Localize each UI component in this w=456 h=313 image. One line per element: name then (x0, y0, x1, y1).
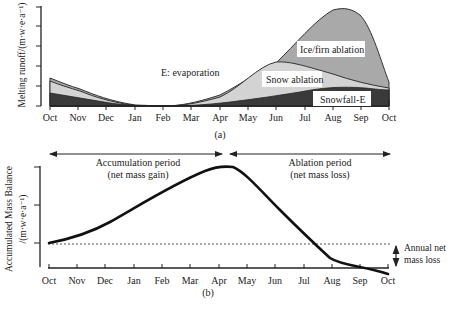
y-axis-label-a: Melting runoff/(m·w·e·a⁻¹) (17, 2, 28, 107)
svg-text:Dec: Dec (98, 112, 115, 123)
x-tick-labels-b: Oct Nov Dec Jan Feb Mar Apr May Jun Jul … (42, 275, 396, 286)
svg-text:Oct: Oct (43, 112, 58, 123)
svg-text:Jul: Jul (298, 275, 310, 286)
svg-text:Apr: Apr (212, 112, 228, 123)
svg-text:Mar: Mar (182, 275, 199, 286)
svg-text:May: May (238, 275, 256, 286)
svg-text:Feb: Feb (155, 275, 170, 286)
ice-firn-ablation-label: Ice/firn ablation (300, 44, 364, 55)
panel-b: Accumulation period (net mass gain) Abla… (4, 154, 446, 299)
mass-balance-curve (49, 167, 388, 274)
svg-text:Mar: Mar (183, 112, 200, 123)
svg-text:Jul: Jul (299, 112, 311, 123)
svg-text:May: May (239, 112, 257, 123)
annual-net-label: Annual net (404, 243, 446, 253)
evaporation-note: E: evaporation (161, 67, 220, 78)
svg-text:Oct: Oct (42, 275, 57, 286)
ablation-period-sub: (net mass loss) (290, 169, 349, 181)
ablation-period-title: Ablation period (288, 157, 351, 168)
y-axis-label-b-line1: Accumulated Mass Balance (4, 166, 14, 272)
x-tick-labels-a: Oct Nov Dec Jan Feb Mar Apr May Jun Jul … (43, 112, 397, 123)
panel-label-b: (b) (202, 287, 214, 299)
svg-text:Aug: Aug (323, 275, 340, 286)
svg-text:Jan: Jan (128, 112, 141, 123)
svg-text:Dec: Dec (97, 275, 114, 286)
panel-label-a: (a) (214, 129, 225, 141)
svg-text:Jun: Jun (268, 275, 282, 286)
svg-text:Oct: Oct (381, 275, 396, 286)
snowfall-e-label: Snowfall-E (320, 94, 366, 105)
y-axis-label-b-line2: /(m·w·e·a⁻¹) (18, 194, 29, 243)
svg-text:Nov: Nov (68, 275, 85, 286)
svg-text:Apr: Apr (211, 275, 227, 286)
svg-text:Oct: Oct (382, 112, 397, 123)
svg-text:Sep: Sep (354, 112, 369, 123)
figure: Oct Nov Dec Jan Feb Mar Apr May Jun Jul … (0, 0, 456, 313)
snow-ablation-label: Snow ablation (266, 74, 324, 85)
panel-a: Oct Nov Dec Jan Feb Mar Apr May Jun Jul … (17, 2, 396, 141)
mass-loss-label: mass loss (404, 255, 440, 265)
svg-text:Jan: Jan (127, 275, 140, 286)
svg-text:Jun: Jun (269, 112, 283, 123)
svg-text:Sep: Sep (353, 275, 368, 286)
svg-text:Nov: Nov (69, 112, 86, 123)
accumulation-period-title: Accumulation period (96, 157, 181, 168)
svg-text:Feb: Feb (156, 112, 171, 123)
accumulation-period-sub: (net mass gain) (107, 169, 168, 181)
svg-text:Aug: Aug (324, 112, 341, 123)
